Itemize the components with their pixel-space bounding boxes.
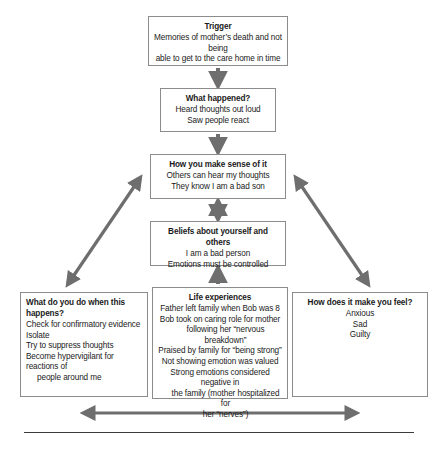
box-behaviour-title: What do you do when this happens? (26, 297, 142, 319)
box-behaviour-line-5: people around me (26, 373, 142, 384)
box-life-experiences-title: Life experiences (158, 292, 282, 303)
box-life-experiences-line-8: her “nerves”) (158, 410, 282, 421)
box-life-experiences-line-5: Not showing emotion was valued (158, 357, 282, 368)
box-how-you-make-sense-of-it: How you make sense of it Others can hear… (150, 154, 286, 199)
box-trigger-line-1: Memories of mother’s death and not being (154, 33, 282, 54)
box-behaviour-line-3: Try to suppress thoughts (26, 341, 142, 352)
box-life-experiences-line-4: Praised by family for “being strong” (158, 346, 282, 357)
box-sense-title: How you make sense of it (156, 159, 280, 170)
box-feelings-title: How does it make you feel? (298, 297, 422, 308)
box-beliefs-title: Beliefs about yourself and others (156, 226, 280, 248)
box-trigger: Trigger Memories of mother’s death and n… (148, 16, 288, 66)
box-behaviour-line-4: Become hypervigilant for reactions of (26, 352, 142, 373)
box-what-happened-line-2: Saw people react (166, 116, 270, 127)
box-life-experiences-line-2: Bob took on caring role for mother (158, 315, 282, 326)
box-how-does-it-make-you-feel: How does it make you feel? Anxious Sad G… (292, 292, 428, 397)
box-feelings-line-1: Anxious (298, 309, 422, 320)
box-behaviour-line-2: Isolate (26, 331, 142, 342)
arrow-sense-to-feelings (296, 178, 368, 284)
box-life-experiences: Life experiences Father left family when… (152, 287, 288, 399)
box-life-experiences-line-1: Father left family when Bob was 8 (158, 304, 282, 315)
box-what-happened: What happened? Heard thoughts out loud S… (160, 88, 276, 132)
box-trigger-title: Trigger (154, 21, 282, 32)
box-behaviour-line-1: Check for confirmatory evidence (26, 320, 142, 331)
box-feelings-line-3: Guilty (298, 330, 422, 341)
box-feelings-line-2: Sad (298, 320, 422, 331)
box-trigger-line-2: able to get to the care home in time (154, 54, 282, 65)
box-life-experiences-line-3: following her “nervous breakdown” (158, 325, 282, 346)
box-beliefs-line-1: I am a bad person (156, 249, 280, 260)
box-what-do-you-do-when-this-happens: What do you do when this happens? Check … (20, 292, 148, 397)
box-sense-line-2: They know I am a bad son (156, 182, 280, 193)
box-beliefs-about-yourself-and-others: Beliefs about yourself and others I am a… (150, 221, 286, 266)
box-life-experiences-line-7: the family (mother hospitalized for (158, 389, 282, 410)
box-what-happened-title: What happened? (166, 93, 270, 104)
box-beliefs-line-2: Emotions must be controlled (156, 260, 280, 271)
box-life-experiences-line-6: Strong emotions considered negative in (158, 368, 282, 389)
box-what-happened-line-1: Heard thoughts out loud (166, 105, 270, 116)
diagram-canvas: Trigger Memories of mother’s death and n… (0, 0, 438, 449)
box-sense-line-1: Others can hear my thoughts (156, 171, 280, 182)
arrow-sense-to-behaviour (68, 178, 140, 284)
